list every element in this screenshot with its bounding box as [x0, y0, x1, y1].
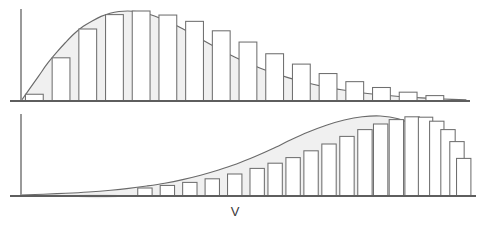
bar: [138, 188, 152, 196]
figure-root: V: [0, 0, 488, 229]
bar: [132, 11, 150, 101]
bottom-chart-svg: V: [0, 112, 488, 229]
bar: [322, 144, 336, 196]
bar: [52, 58, 70, 101]
bar: [205, 179, 219, 196]
bar: [268, 163, 282, 196]
bar: [319, 74, 337, 101]
bar: [183, 182, 197, 196]
bar: [106, 15, 124, 101]
bar: [373, 124, 387, 196]
bar: [160, 185, 174, 196]
bottom-riemann-bars: [138, 117, 471, 196]
bar: [25, 94, 43, 101]
bar: [212, 31, 230, 101]
bar: [457, 158, 471, 196]
bar: [399, 92, 417, 101]
bottom-chart-content: V: [10, 114, 476, 219]
bar: [79, 29, 97, 101]
top-chart-content: [10, 9, 470, 101]
x-axis-tick-label-v: V: [231, 204, 240, 219]
chart-panel-bottom: V: [0, 112, 488, 229]
bar: [358, 130, 372, 196]
bar: [250, 168, 264, 196]
bar: [426, 96, 444, 101]
bar: [405, 117, 419, 196]
bar: [292, 64, 310, 101]
bar: [389, 120, 403, 196]
top-chart-svg: [0, 0, 488, 112]
bar: [186, 21, 204, 101]
bar: [346, 82, 364, 101]
bar: [340, 136, 354, 196]
bar: [304, 151, 318, 196]
bar: [239, 42, 257, 101]
bar: [266, 54, 284, 101]
bar: [373, 88, 391, 102]
chart-panel-top: [0, 0, 488, 112]
bar: [159, 15, 177, 101]
bar: [286, 158, 300, 196]
bar: [228, 174, 242, 196]
